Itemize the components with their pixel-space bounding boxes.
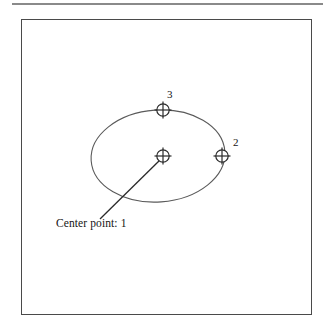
center-point-caption: Center point: 1 [56,217,127,230]
point-label-2: 2 [233,136,239,148]
figure-root: 3 2 Center point: 1 [0,0,333,331]
figure-frame-border [21,19,312,315]
page-top-rule [12,3,323,5]
point-label-3: 3 [167,88,173,100]
